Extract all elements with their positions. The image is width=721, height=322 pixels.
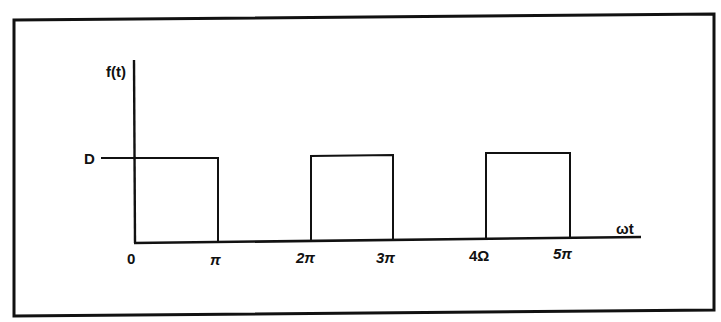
- tick-label-pi: π: [210, 251, 221, 268]
- y-axis-label: f(t): [106, 63, 126, 80]
- x-axis: [134, 237, 641, 243]
- tick-label-5pi: 5π: [553, 245, 572, 262]
- square-wave-diagram: f(t) D ωt 0 π 2π 3π 4Ω 5π: [0, 0, 721, 322]
- pulse-2: [311, 155, 393, 241]
- x-axis-label: ωt: [616, 220, 634, 237]
- tick-label-3pi: 3π: [376, 249, 395, 266]
- tick-label-4omega: 4Ω: [469, 247, 489, 264]
- outer-frame: [14, 14, 714, 316]
- pulse-1: [134, 158, 218, 242]
- pulse-3: [486, 153, 570, 239]
- level-d-label: D: [84, 150, 95, 167]
- y-axis: [134, 60, 135, 243]
- tick-label-0: 0: [127, 250, 135, 267]
- tick-label-2pi: 2π: [295, 249, 315, 266]
